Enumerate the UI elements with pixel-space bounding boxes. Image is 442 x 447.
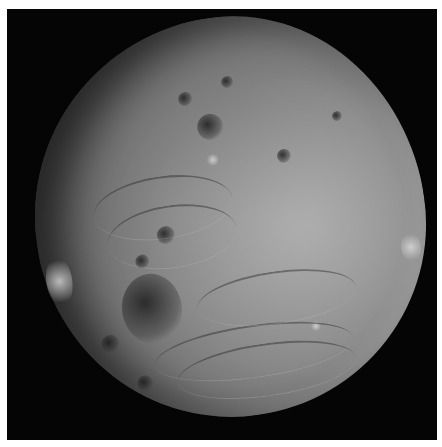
crater (220, 75, 234, 89)
bright-spot (206, 153, 220, 167)
crater (100, 334, 120, 354)
crater (331, 110, 342, 121)
asteroid-body (9, 9, 437, 440)
crater (196, 112, 225, 141)
crater (136, 374, 154, 392)
crater-large (117, 270, 186, 348)
space-background (7, 9, 437, 440)
crater (276, 148, 292, 164)
bright-spot (399, 231, 423, 263)
crater (177, 91, 193, 107)
bright-spot (43, 255, 76, 308)
surface-ridge (194, 260, 360, 335)
